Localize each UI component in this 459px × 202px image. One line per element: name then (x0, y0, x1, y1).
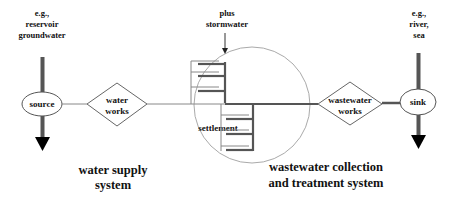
svg-text:source: source (30, 99, 55, 109)
wastewater-works-node: wastewater works (318, 82, 382, 125)
svg-text:reservoir: reservoir (26, 19, 59, 29)
svg-text:settlement: settlement (198, 123, 237, 133)
svg-text:plus: plus (219, 8, 235, 18)
water-cycle-diagram: e.g., reservoir groundwater source water… (0, 0, 459, 202)
svg-text:works: works (105, 106, 129, 116)
svg-text:water: water (106, 95, 128, 105)
svg-text:works: works (338, 106, 362, 116)
svg-text:and treatment system: and treatment system (268, 176, 384, 190)
source-node: source (22, 92, 62, 116)
svg-text:e.g.,: e.g., (35, 8, 49, 18)
svg-text:sink: sink (410, 97, 426, 107)
stormwater-annotation: plus stormwater (206, 8, 248, 54)
svg-text:water supply: water supply (79, 163, 149, 177)
down-arrow-icon (35, 137, 50, 151)
water-works-node: water works (87, 83, 147, 126)
wastewater-system-label: wastewater collection and treatment syst… (268, 160, 384, 190)
svg-text:wastewater: wastewater (328, 95, 371, 105)
water-supply-system-label: water supply system (79, 163, 149, 192)
svg-text:sea: sea (413, 30, 425, 40)
svg-text:river,: river, (409, 19, 428, 29)
svg-text:system: system (95, 178, 132, 192)
svg-text:stormwater: stormwater (206, 19, 248, 29)
svg-text:groundwater: groundwater (18, 30, 65, 40)
source-annotation: e.g., reservoir groundwater (18, 8, 65, 40)
sink-annotation: e.g., river, sea (409, 8, 428, 40)
svg-text:e.g.,: e.g., (412, 8, 426, 18)
svg-text:wastewater collection: wastewater collection (269, 160, 383, 174)
sink-node: sink (400, 89, 436, 115)
down-arrow-icon (411, 135, 426, 149)
